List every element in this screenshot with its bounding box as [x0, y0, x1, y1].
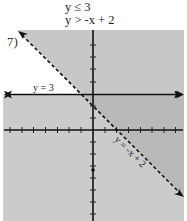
- problem-number: 7): [7, 34, 18, 50]
- label-y-equals-3: y = 3: [33, 82, 54, 93]
- y-axis-dot: [91, 168, 95, 172]
- coordinate-graph: y = 3 y = -x + 2: [0, 0, 187, 221]
